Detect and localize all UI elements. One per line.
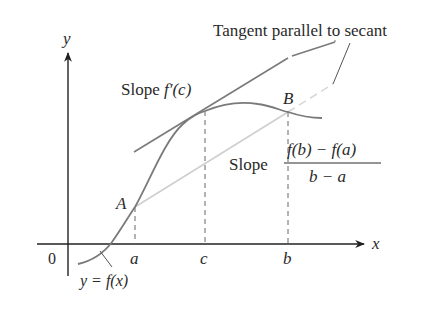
tangent-line-extension — [292, 42, 335, 56]
y-axis-label: y — [61, 29, 71, 48]
curve-label-leader — [100, 251, 112, 267]
tangent-slope-label: Slope f′(c) — [121, 80, 192, 99]
secant-slope-numerator: f(b) − f(a) — [287, 140, 356, 159]
origin-label: 0 — [48, 250, 56, 267]
point-label-a: A — [115, 194, 127, 213]
point-label-b: B — [283, 89, 294, 108]
callout-leader-secant — [333, 43, 350, 84]
tick-label-c: c — [200, 249, 208, 268]
callout-label: Tangent parallel to secant — [213, 21, 387, 40]
secant-line-extension — [288, 84, 333, 112]
secant-slope-denominator: b − a — [309, 167, 346, 186]
function-curve — [78, 103, 322, 264]
secant-slope-prefix: Slope — [229, 155, 268, 174]
tick-label-a: a — [130, 249, 139, 268]
mvt-diagram: y x 0 a c b A B y = f(x) Slope f′(c) Tan… — [0, 0, 447, 312]
x-axis-label: x — [371, 234, 380, 253]
tangent-slope-prefix: Slope — [121, 80, 164, 99]
tangent-slope-expr: f′(c) — [164, 80, 192, 99]
tick-label-b: b — [283, 249, 292, 268]
curve-label: y = f(x) — [78, 272, 128, 290]
